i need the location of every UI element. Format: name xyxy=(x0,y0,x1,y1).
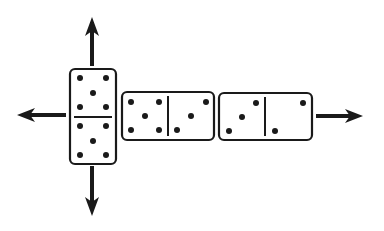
domino-diagram xyxy=(0,0,384,231)
arrow-down-icon xyxy=(85,166,99,216)
arrow-right-icon xyxy=(316,109,363,123)
arrow-up-icon xyxy=(85,17,99,66)
arrow-left-icon xyxy=(17,108,66,122)
domino-middle-5-3 xyxy=(122,92,214,140)
domino-spinner-5-5 xyxy=(70,69,116,164)
domino-right-3-2 xyxy=(219,93,312,140)
